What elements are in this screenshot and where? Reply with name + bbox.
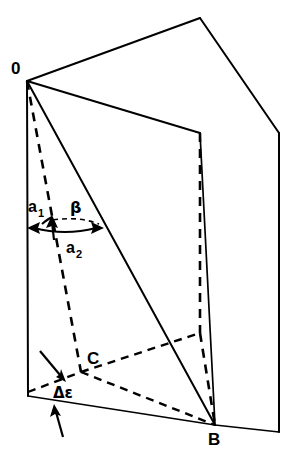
angle-label-beta: β	[70, 198, 81, 217]
back-plane-group	[27, 18, 279, 432]
vertex-label-C: C	[87, 349, 99, 368]
arrowhead-delta-lower	[50, 404, 61, 417]
arrow-delta-lower-shaft	[56, 412, 63, 437]
labels-group: 0 B C a 1 β a 2 Δε	[11, 59, 220, 449]
dihedral-angle-figure: 0 B C a 1 β a 2 Δε	[0, 0, 302, 465]
arc-a2	[34, 228, 96, 232]
edge-ridge-fold	[27, 81, 200, 133]
edge-back-top-right	[200, 18, 279, 133]
diagram-canvas: 0 B C a 1 β a 2 Δε	[0, 0, 302, 465]
edge-ridge-upper	[27, 18, 200, 81]
edge-back-bottom	[215, 425, 279, 432]
angle-label-a1-subscript: 1	[38, 207, 44, 219]
angle-label-a2-base: a	[66, 239, 75, 256]
angle-label-a2-subscript: 2	[76, 248, 82, 260]
angle-label-a1-base: a	[28, 198, 37, 215]
edge-diagonal-O-to-B	[27, 81, 215, 425]
edge-dashed-C-to-B	[81, 372, 215, 425]
vertex-label-O: 0	[11, 59, 20, 78]
angle-label-delta-epsilon: Δε	[53, 384, 73, 402]
arrow-delta-upper-shaft	[40, 351, 60, 375]
vertex-label-B: B	[208, 430, 220, 449]
edge-front-left-vertical	[27, 81, 28, 396]
